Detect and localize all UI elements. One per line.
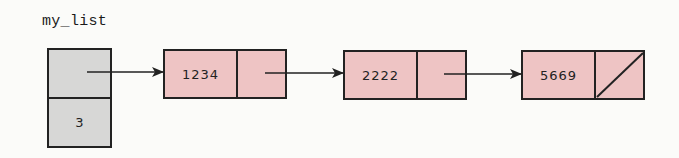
node-data-cell: 2222	[345, 52, 418, 98]
node-data-cell: 1234	[165, 51, 238, 97]
linked-list-diagram: my_list 3 1234 2222 5669	[0, 0, 679, 158]
node-next-cell	[238, 51, 285, 97]
variable-name-label: my_list	[42, 13, 107, 30]
list-node-3: 5669	[521, 50, 645, 100]
null-slash-icon	[596, 52, 644, 98]
node-next-null-cell	[596, 52, 643, 98]
head-pointer-cell	[49, 50, 110, 99]
size-cell: 3	[49, 99, 110, 146]
node-data-cell: 5669	[523, 52, 596, 98]
list-header-object: 3	[47, 48, 112, 148]
node-next-cell	[418, 52, 465, 98]
list-node-1: 1234	[163, 49, 287, 99]
list-node-2: 2222	[343, 50, 467, 100]
